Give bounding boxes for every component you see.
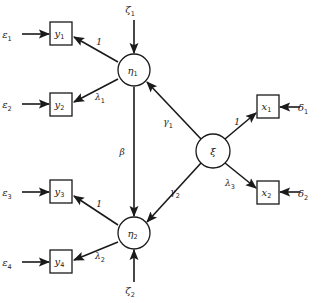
error-term-eps2: ε2 <box>2 99 12 113</box>
path-coefficient-eta2-y3: 1 <box>96 199 102 209</box>
error-term-eps3: ε3 <box>2 187 12 201</box>
path-arrow-xi-eta1 <box>147 82 201 139</box>
observed-variable-x1: x1 <box>257 95 279 118</box>
latent-variable-eta2: η2 <box>118 217 150 249</box>
error-term-eps4: ε4 <box>2 257 12 271</box>
error-term-eps1: ε1 <box>2 29 12 43</box>
latent-variable-xi: ξ <box>196 134 230 168</box>
observed-variable-y3: y3 <box>50 180 72 203</box>
path-coefficient-eta2-y4: λ2 <box>94 251 105 264</box>
observed-variable-y2: y2 <box>50 93 72 116</box>
error-term-delta1: δ1 <box>298 102 308 116</box>
edges-layer <box>22 20 300 282</box>
observed-variable-x2: x2 <box>257 181 279 204</box>
path-coefficient-eta1-eta2: β <box>118 147 124 157</box>
path-coefficient-xi-eta1: γ1 <box>163 117 173 130</box>
path-coefficient-eta1-y2: λ1 <box>94 92 105 105</box>
nodes-layer: η1η2ξy1y2y3y4x1x2 <box>50 22 279 273</box>
path-coefficient-xi-x2: λ3 <box>224 178 235 191</box>
observed-variable-y1: y1 <box>50 22 72 45</box>
observed-variable-y4: y4 <box>50 250 72 273</box>
path-arrow-xi-x1 <box>225 113 256 139</box>
path-coefficient-eta1-y1: 1 <box>96 37 102 47</box>
labels-layer: 1λ11λ2βγ1γ21λ3ε1ε2ε3ε4δ1δ2ζ1ζ2 <box>2 4 308 299</box>
error-term-zeta2: ζ2 <box>125 285 135 299</box>
latent-variable-eta1: η1 <box>118 54 150 86</box>
error-term-zeta1: ζ1 <box>125 4 135 18</box>
path-coefficient-xi-x1: 1 <box>234 117 240 127</box>
sem-path-diagram: η1η2ξy1y2y3y4x1x2 1λ11λ2βγ1γ21λ3ε1ε2ε3ε4… <box>0 0 324 303</box>
error-term-delta2: δ2 <box>298 188 308 202</box>
label-xi: ξ <box>210 146 216 157</box>
